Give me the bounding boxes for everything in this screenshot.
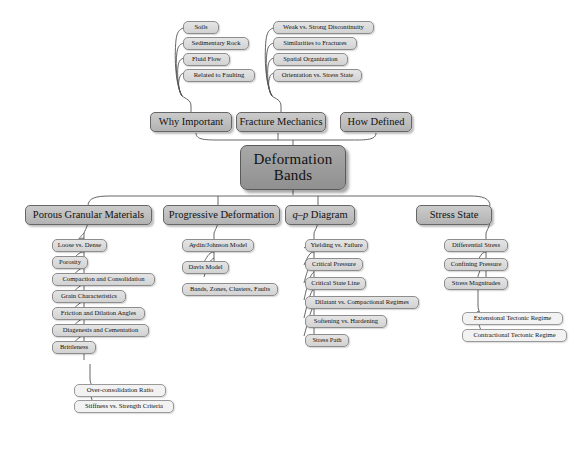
branch-label: Fracture Mechanics (239, 116, 322, 127)
leaf-bands-zones-clusters-faults[interactable]: Bands, Zones, Clusters, Faults (182, 283, 278, 296)
leaf-label: Stress Path (312, 337, 341, 344)
leaf-yielding-vs-failure[interactable]: Yielding vs. Failure (305, 239, 368, 252)
leaf-label: Soils (194, 24, 207, 31)
leaf-compaction-and-consolidation[interactable]: Compaction and Consolidation (52, 273, 155, 286)
leaf-label: Loose vs. Dense (58, 242, 101, 249)
branch-qp-diagram[interactable]: q–p Diagram (285, 205, 355, 225)
leaf-label: Stiffness vs. Strength Criteria (85, 403, 163, 410)
leaf-weak-vs-strong-discontinuity[interactable]: Weak vs. Strong Discontinuity (273, 21, 374, 34)
leaf-label: Orientation vs. Stress State (282, 72, 353, 79)
branch-label: How Defined (348, 116, 405, 127)
leaf-softening-vs-hardening[interactable]: Softening vs. Hardening (305, 315, 387, 328)
leaf-similarities-to-fractures[interactable]: Similarities to Fractures (273, 37, 357, 50)
leaf-label: Yielding vs. Failure (310, 242, 362, 249)
leaf-contractional-tectonic-regime[interactable]: Contractional Tectonic Regime (462, 329, 567, 342)
branch-stress-state[interactable]: Stress State (416, 205, 492, 225)
leaf-label: Differential Stress (452, 242, 500, 249)
leaf-aydin-johnson-model[interactable]: Aydin/Johnson Model (182, 239, 254, 252)
leaf-label: Bands, Zones, Clusters, Faults (190, 286, 270, 293)
leaf-label: Fluid Flow (192, 56, 221, 63)
leaf-label: Friction and Dilation Angles (61, 310, 136, 317)
leaf-label: Critical Pressure (312, 261, 356, 268)
branch-label: Progressive Deformation (169, 209, 274, 220)
leaf-porosity[interactable]: Porosity (52, 256, 88, 269)
leaf-label: Compaction and Consolidation (62, 276, 144, 283)
leaf-diagenesis-and-cementation[interactable]: Diagenesis and Cementation (52, 324, 149, 337)
leaf-sedimentary-rock[interactable]: Sedimentary Rock (183, 37, 249, 50)
leaf-label: Contractional Tectonic Regime (473, 332, 555, 339)
branch-fracture-mechanics[interactable]: Fracture Mechanics (236, 112, 326, 132)
leaf-stress-magnitudes[interactable]: Stress Magnitudes (444, 277, 508, 290)
leaf-label: Grain Characteristics (61, 293, 117, 300)
leaf-label: Diagenesis and Cementation (63, 327, 138, 334)
leaf-label: Critical State Line (311, 280, 359, 287)
leaf-label: Aydin/Johnson Model (189, 242, 247, 249)
leaf-extensional-tectonic-regime[interactable]: Extensional Tectonic Regime (462, 312, 563, 325)
leaf-orientation-vs-stress-state[interactable]: Orientation vs. Stress State (273, 69, 362, 82)
leaf-confining-pressure[interactable]: Confining Pressure (444, 258, 508, 271)
leaf-label: Softening vs. Hardening (314, 318, 378, 325)
leaf-friction-and-dilation-angles[interactable]: Friction and Dilation Angles (52, 307, 145, 320)
root-node[interactable]: Deformation Bands (240, 145, 346, 190)
leaf-dilatant-vs-compactional-regimes[interactable]: Dilatant vs. Compactional Regimes (305, 296, 419, 309)
leaf-label: Spatial Organization (283, 56, 337, 63)
branch-label: Porous Granular Materials (33, 209, 144, 220)
branch-label-rest-part: Diagram (308, 209, 347, 220)
leaf-label: Stress Magnitudes (452, 280, 501, 287)
leaf-stress-path[interactable]: Stress Path (305, 334, 349, 347)
leaf-label: Porosity (59, 259, 81, 266)
branch-progressive-deformation[interactable]: Progressive Deformation (163, 205, 280, 225)
leaf-label: Dilatant vs. Compactional Regimes (315, 299, 409, 306)
leaf-related-to-faulting[interactable]: Related to Faulting (183, 69, 255, 82)
branch-how-defined[interactable]: How Defined (340, 112, 412, 132)
leaf-differential-stress[interactable]: Differential Stress (444, 239, 508, 252)
leaf-label: Over-consolidation Ratio (87, 387, 154, 394)
leaf-label: Similarities to Fractures (283, 40, 346, 47)
leaf-soils[interactable]: Soils (183, 21, 219, 34)
leaf-label: Extensional Tectonic Regime (474, 315, 551, 322)
leaf-label: Confining Pressure (451, 261, 502, 268)
leaf-loose-vs-dense[interactable]: Loose vs. Dense (52, 239, 107, 252)
leaf-label: Davis Model (188, 264, 222, 271)
leaf-over-consolidation-ratio[interactable]: Over-consolidation Ratio (74, 384, 166, 397)
branch-label: q–p Diagram (292, 209, 347, 220)
branch-porous-granular-materials[interactable]: Porous Granular Materials (25, 205, 152, 225)
leaf-grain-characteristics[interactable]: Grain Characteristics (52, 290, 126, 303)
branch-label: Stress State (430, 209, 479, 220)
leaf-brittleness[interactable]: Brittleness (52, 341, 96, 354)
leaf-critical-pressure[interactable]: Critical Pressure (305, 258, 363, 271)
connector-lines (0, 0, 586, 450)
root-node-line1: Deformation (254, 152, 333, 168)
root-node-line2: Bands (274, 168, 313, 184)
leaf-stiffness-vs-strength-criteria[interactable]: Stiffness vs. Strength Criteria (74, 400, 174, 413)
mind-map-canvas: Deformation Bands Why Important Fracture… (0, 0, 586, 450)
leaf-label: Weak vs. Strong Discontinuity (283, 24, 364, 31)
leaf-fluid-flow[interactable]: Fluid Flow (183, 53, 230, 66)
leaf-critical-state-line[interactable]: Critical State Line (305, 277, 366, 290)
leaf-davis-model[interactable]: Davis Model (182, 261, 229, 274)
leaf-label: Brittleness (60, 344, 88, 351)
leaf-label: Related to Faulting (194, 72, 245, 79)
leaf-label: Sedimentary Rock (192, 40, 241, 47)
branch-label: Why Important (159, 116, 223, 127)
branch-why-important[interactable]: Why Important (150, 112, 232, 132)
leaf-spatial-organization[interactable]: Spatial Organization (273, 53, 348, 66)
branch-label-italic-part: q–p (292, 209, 308, 220)
